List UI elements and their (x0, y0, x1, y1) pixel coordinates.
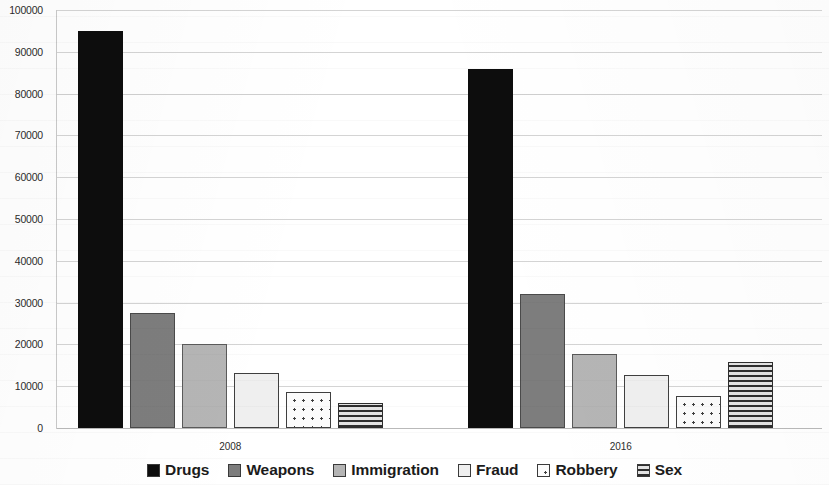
bar-weapons-2016 (520, 294, 565, 428)
legend-label-robbery: Robbery (555, 461, 617, 479)
y-axis-tick-20000: 20000 (0, 338, 43, 350)
bar-robbery-2016 (676, 396, 721, 428)
bar-chart: 1000009000080000700006000050000400003000… (0, 0, 829, 485)
legend-label-drugs: Drugs (165, 461, 209, 479)
y-axis-tick-30000: 30000 (0, 297, 43, 309)
bar-sex-2008 (338, 403, 383, 428)
y-axis-tick-90000: 90000 (0, 46, 43, 58)
legend-item-drugs[interactable]: Drugs (147, 461, 209, 479)
legend-item-immigration[interactable]: Immigration (333, 461, 439, 479)
chart-legend: DrugsWeaponsImmigrationFraudRobberySex (0, 461, 829, 479)
x-axis-label-2008: 2008 (78, 441, 383, 452)
y-axis-tick-0: 0 (0, 422, 43, 434)
bar-immigration-2008 (182, 344, 227, 428)
y-axis-tick-50000: 50000 (0, 213, 43, 225)
legend-item-weapons[interactable]: Weapons (228, 461, 314, 479)
bar-immigration-2016 (572, 354, 617, 428)
legend-swatch-drugs-icon (147, 464, 160, 477)
legend-label-fraud: Fraud (476, 461, 519, 479)
legend-swatch-sex-icon (637, 464, 650, 477)
bar-robbery-2008 (286, 392, 331, 428)
legend-item-sex[interactable]: Sex (637, 461, 682, 479)
y-axis-tick-80000: 80000 (0, 88, 43, 100)
y-axis-tick-60000: 60000 (0, 171, 43, 183)
bar-drugs-2008 (78, 31, 123, 428)
bar-group-2008 (78, 10, 383, 428)
bar-fraud-2008 (234, 373, 279, 428)
legend-label-weapons: Weapons (246, 461, 314, 479)
plot-area: 1000009000080000700006000050000400003000… (57, 10, 822, 428)
bar-weapons-2008 (130, 313, 175, 428)
legend-item-fraud[interactable]: Fraud (458, 461, 519, 479)
legend-swatch-robbery-icon (537, 464, 550, 477)
x-axis-label-2016: 2016 (468, 441, 773, 452)
legend-swatch-immigration-icon (333, 464, 346, 477)
legend-swatch-fraud-icon (458, 464, 471, 477)
y-axis-tick-10000: 10000 (0, 380, 43, 392)
legend-item-robbery[interactable]: Robbery (537, 461, 617, 479)
bar-fraud-2016 (624, 375, 669, 429)
bar-sex-2016 (728, 362, 773, 428)
bar-drugs-2016 (468, 69, 513, 428)
legend-label-sex: Sex (655, 461, 682, 479)
y-axis-tick-40000: 40000 (0, 255, 43, 267)
legend-swatch-weapons-icon (228, 464, 241, 477)
legend-label-immigration: Immigration (351, 461, 439, 479)
y-axis-tick-100000: 100000 (0, 4, 43, 16)
gridline-0 (57, 428, 822, 429)
bar-group-2016 (468, 10, 773, 428)
y-axis-tick-70000: 70000 (0, 129, 43, 141)
